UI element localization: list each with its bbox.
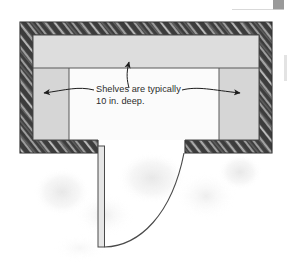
figure-canvas: Shelves are typically 10 in. deep.	[0, 0, 287, 266]
shelf-depth-annotation: Shelves are typically 10 in. deep.	[96, 84, 181, 107]
floor-plan-drawing	[0, 0, 287, 266]
shelf-left-return	[33, 68, 69, 140]
page-right-edge-mark	[284, 55, 287, 81]
shelf-right-return	[219, 68, 259, 140]
page-corner-marker	[273, 0, 284, 10]
shelf-depth-annotation-line1: Shelves are typically	[96, 84, 181, 94]
shelf-depth-annotation-line2: 10 in. deep.	[96, 96, 181, 108]
shelf-back-run-highlight	[33, 35, 259, 68]
door-leaf	[98, 146, 105, 247]
